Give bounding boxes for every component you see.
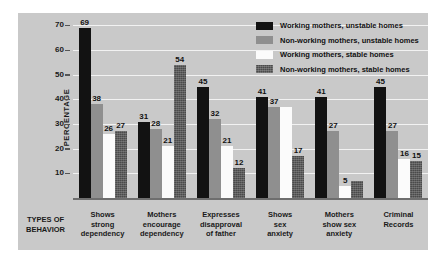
bar-slot: 28 <box>150 13 162 198</box>
bar-value-label: 5 <box>343 176 347 185</box>
bar-value-label: 27 <box>116 121 125 130</box>
category-label-line: show sex <box>310 220 369 230</box>
bar-value-label: 38 <box>92 94 101 103</box>
bar[interactable]: 32 <box>209 119 221 198</box>
y-tick-label: 40 <box>55 94 64 104</box>
y-tick-mark <box>65 50 70 52</box>
bar[interactable]: 5 <box>339 186 351 198</box>
category-label-line: of father <box>191 229 250 239</box>
category-label-line: anxiety <box>310 229 369 239</box>
bar-group: 31282154 <box>132 13 191 198</box>
bar[interactable]: 41 <box>315 97 327 198</box>
x-axis-title: TYPES OFBEHAVIOR <box>18 201 73 234</box>
category-label-line: anxiety <box>251 229 310 239</box>
bar-value-label: 27 <box>329 121 338 130</box>
bar[interactable]: 27 <box>386 131 398 198</box>
bar-value-label: 41 <box>258 87 267 96</box>
y-tick-mark <box>65 74 70 76</box>
x-axis-title-line: BEHAVIOR <box>18 225 73 235</box>
bar[interactable]: 17 <box>292 156 304 198</box>
category-label-line: Mothers <box>310 210 369 220</box>
bar-value-label: 21 <box>222 136 231 145</box>
bar[interactable]: 21 <box>162 146 174 198</box>
bar[interactable] <box>280 107 292 198</box>
category-label: Showsstrongdependency <box>73 201 132 250</box>
bar[interactable]: 21 <box>221 146 233 198</box>
bar-value-label: 54 <box>175 55 184 64</box>
y-tick-mark <box>65 148 70 150</box>
bar[interactable]: 12 <box>233 168 245 198</box>
bar-value-label: 45 <box>376 77 385 86</box>
y-tick-mark <box>65 173 70 175</box>
y-tick-label: 50 <box>55 70 64 80</box>
legend-item[interactable]: Working mothers, stable homes <box>256 48 419 61</box>
bar-slot: 69 <box>79 13 91 198</box>
bar[interactable]: 45 <box>197 87 209 198</box>
category-label-line: Records <box>369 220 428 230</box>
bar-value-label: 28 <box>151 119 160 128</box>
y-tick-mark <box>65 25 70 27</box>
bar-value-label: 31 <box>139 112 148 121</box>
y-tick-mark <box>65 124 70 126</box>
bar-value-label: 15 <box>412 151 421 160</box>
bar-group: 69382627 <box>73 13 132 198</box>
bar[interactable]: 15 <box>410 161 422 198</box>
x-axis-title-line: TYPES OF <box>18 215 73 225</box>
bar-slot: 21 <box>162 13 174 198</box>
bar-value-label: 17 <box>294 146 303 155</box>
bar[interactable]: 37 <box>268 107 280 198</box>
legend-swatch <box>256 51 273 59</box>
y-tick: 40 <box>36 94 70 104</box>
legend-label: Working mothers, stable homes <box>280 50 394 59</box>
category-label-line: Expresses <box>191 210 250 220</box>
bar[interactable]: 54 <box>174 65 186 198</box>
bar[interactable]: 69 <box>79 28 91 198</box>
category-labels: ShowsstrongdependencyMothersencouragedep… <box>73 201 428 250</box>
category-label: Mothersshow sexanxiety <box>310 201 369 250</box>
legend-swatch <box>256 65 273 73</box>
bar-slot: 54 <box>174 13 186 198</box>
bar-slot: 26 <box>103 13 115 198</box>
bar[interactable]: 38 <box>91 104 103 198</box>
bar[interactable]: 27 <box>115 131 127 198</box>
bar[interactable]: 41 <box>256 97 268 198</box>
y-tick: 50 <box>36 70 70 80</box>
legend-item[interactable]: Working mothers, unstable homes <box>256 19 419 32</box>
chart-figure: PERCENTAGE 70605040302010 69382627312821… <box>0 0 443 262</box>
bar[interactable]: 26 <box>103 134 115 198</box>
chart-panel: PERCENTAGE 70605040302010 69382627312821… <box>18 13 428 250</box>
bar[interactable]: 27 <box>327 131 339 198</box>
bar-value-label: 26 <box>104 124 113 133</box>
category-label: CriminalRecords <box>369 201 428 250</box>
bar-slot: 32 <box>209 13 221 198</box>
bar[interactable] <box>351 181 363 198</box>
y-tick-label: 70 <box>55 20 64 30</box>
bar[interactable]: 31 <box>138 122 150 198</box>
chart-legend: Working mothers, unstable homesNon-worki… <box>256 19 419 77</box>
bar[interactable]: 28 <box>150 129 162 198</box>
category-label: Mothersencouragedependency <box>132 201 191 250</box>
bar[interactable]: 16 <box>398 159 410 198</box>
category-label-line: dependency <box>73 229 132 239</box>
y-tick: 60 <box>36 45 70 55</box>
bar-slot: 27 <box>115 13 127 198</box>
bar-value-label: 27 <box>388 121 397 130</box>
category-label-line: Mothers <box>132 210 191 220</box>
category-label: Showssexanxiety <box>251 201 310 250</box>
legend-swatch <box>256 22 273 30</box>
category-label: Expressesdisapprovalof father <box>191 201 250 250</box>
y-axis-ticks: 70605040302010 <box>36 13 70 198</box>
x-axis-line <box>73 198 428 200</box>
legend-label: Working mothers, unstable homes <box>280 21 403 30</box>
legend-item[interactable]: Non-working mothers, stable homes <box>256 63 419 76</box>
bar-group: 45322112 <box>191 13 250 198</box>
bar-slot: 38 <box>91 13 103 198</box>
bar[interactable]: 45 <box>374 87 386 198</box>
bar-slot: 12 <box>233 13 245 198</box>
bar-value-label: 32 <box>210 109 219 118</box>
y-tick-label: 10 <box>55 168 64 178</box>
bar-value-label: 16 <box>400 149 409 158</box>
legend-item[interactable]: Non-working mothers, unstable homes <box>256 34 419 47</box>
category-label-line: Shows <box>73 210 132 220</box>
category-label-line: disapproval <box>191 220 250 230</box>
